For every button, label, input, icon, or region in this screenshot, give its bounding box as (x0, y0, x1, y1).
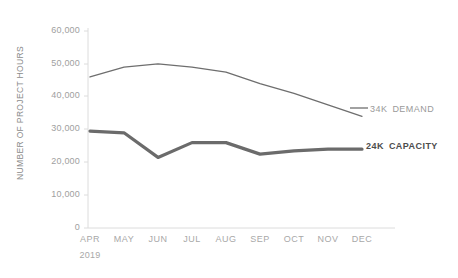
x-axis-year-label: 2019 (70, 250, 110, 260)
capacity-series-label: 24KCAPACITY (366, 141, 438, 151)
capacity-line (90, 131, 362, 157)
demand-line (90, 64, 362, 117)
x-tick-dec: DEC (342, 234, 382, 244)
capacity-value: 24K (366, 141, 384, 151)
axis-lines (84, 28, 395, 228)
capacity-name: CAPACITY (389, 141, 438, 151)
line-chart: NUMBER OF PROJECT HOURS 60,000 50,000 40… (0, 0, 458, 278)
demand-value: 34K (370, 104, 387, 114)
demand-name: DEMAND (392, 104, 434, 114)
demand-series-label: 34KDEMAND (370, 104, 434, 114)
